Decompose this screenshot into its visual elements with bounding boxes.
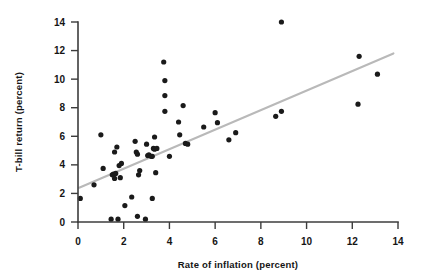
y-tick-label: 12 [54, 45, 66, 56]
data-point [185, 142, 190, 147]
x-tick-label: 2 [121, 236, 127, 247]
x-axis-title: Rate of inflation (percent) [178, 259, 298, 270]
y-tick-label: 2 [59, 188, 65, 199]
data-point [143, 217, 148, 222]
data-point [112, 176, 117, 181]
data-point [226, 137, 231, 142]
data-point [162, 109, 167, 114]
y-tick-label: 0 [59, 217, 65, 228]
x-tick-label: 6 [212, 236, 218, 247]
data-point [91, 182, 96, 187]
data-point [357, 54, 362, 59]
data-point [233, 130, 238, 135]
data-point [201, 124, 206, 129]
data-point [215, 120, 220, 125]
data-point [176, 119, 181, 124]
data-point [109, 217, 114, 222]
data-point [133, 139, 138, 144]
data-point [152, 134, 157, 139]
data-point [273, 114, 278, 119]
data-point [115, 217, 120, 222]
data-point [144, 142, 149, 147]
data-point [129, 194, 134, 199]
data-point [375, 72, 380, 77]
data-point [162, 78, 167, 83]
data-point [122, 203, 127, 208]
data-point [181, 103, 186, 108]
regression-line [79, 53, 393, 187]
data-point [118, 175, 123, 180]
data-point [119, 161, 124, 166]
data-point [101, 166, 106, 171]
y-tick-label: 8 [59, 102, 65, 113]
data-point [135, 152, 140, 157]
x-tick-label: 0 [75, 236, 81, 247]
data-point [137, 168, 142, 173]
data-point [177, 132, 182, 137]
x-tick-label: 14 [392, 236, 404, 247]
y-axis-title: T-bill return (percent) [13, 72, 24, 172]
x-tick-label: 12 [347, 236, 359, 247]
data-point [279, 19, 284, 24]
data-point [98, 132, 103, 137]
data-point [213, 110, 218, 115]
plot-area: 02468101214 02468101214 Rate of inflatio… [0, 0, 427, 277]
data-point [355, 102, 360, 107]
x-tick-label: 4 [167, 236, 173, 247]
data-point [167, 154, 172, 159]
axes-group [78, 22, 398, 222]
data-point [150, 154, 155, 159]
x-tick-label: 10 [301, 236, 313, 247]
data-point [150, 196, 155, 201]
data-point [279, 109, 284, 114]
y-tick-label: 4 [59, 159, 65, 170]
data-point [153, 170, 158, 175]
data-point [161, 59, 166, 64]
y-axis-ticks: 02468101214 [54, 17, 78, 228]
data-point [135, 214, 140, 219]
y-tick-label: 14 [54, 17, 66, 28]
y-tick-label: 6 [59, 131, 65, 142]
data-point [162, 93, 167, 98]
data-point [113, 171, 118, 176]
regression-line-segment [79, 53, 393, 187]
data-point [154, 146, 159, 151]
y-tick-label: 10 [54, 74, 66, 85]
x-axis-ticks: 02468101214 [75, 222, 404, 247]
data-point [112, 149, 117, 154]
data-point [114, 144, 119, 149]
scatter-chart: 02468101214 02468101214 Rate of inflatio… [0, 0, 427, 277]
x-tick-label: 8 [258, 236, 264, 247]
data-points-group [78, 19, 380, 221]
